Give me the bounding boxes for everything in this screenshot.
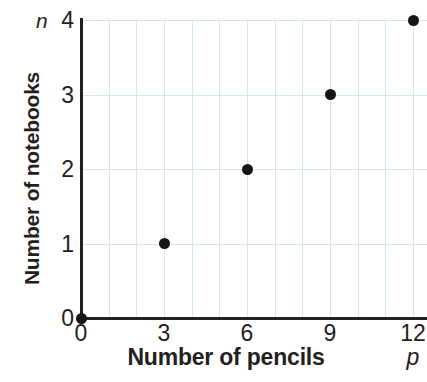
horizontal-gridline bbox=[81, 244, 427, 245]
y-tick-label: 3 bbox=[61, 83, 74, 106]
y-tick-label: 4 bbox=[61, 9, 74, 32]
y-tick-label: 2 bbox=[61, 158, 74, 181]
data-point bbox=[408, 15, 419, 26]
data-point bbox=[242, 164, 253, 175]
x-tick-label: 3 bbox=[158, 322, 171, 345]
y-axis-line bbox=[80, 18, 83, 320]
x-axis-line bbox=[80, 317, 427, 320]
x-tick-label: 0 bbox=[75, 322, 88, 345]
horizontal-gridline bbox=[81, 95, 427, 96]
horizontal-gridline bbox=[81, 169, 427, 170]
y-tick-label: 1 bbox=[61, 232, 74, 255]
y-axis-title: Number of notebooks bbox=[21, 29, 42, 329]
horizontal-gridline bbox=[81, 20, 427, 21]
x-tick-label: 6 bbox=[241, 322, 254, 345]
data-point bbox=[325, 89, 336, 100]
x-axis-title: Number of pencils bbox=[81, 346, 371, 369]
plot-area bbox=[81, 20, 427, 318]
y-tick-label: 0 bbox=[61, 307, 74, 330]
data-point bbox=[159, 238, 170, 249]
scatter-plot-figure: 01234 n p Number of notebooks Number of … bbox=[0, 0, 427, 382]
y-axis-variable-label: n bbox=[36, 10, 48, 31]
x-tick-label: 12 bbox=[400, 322, 426, 345]
x-axis-variable-label: p bbox=[407, 346, 420, 369]
x-tick-label: 9 bbox=[324, 322, 337, 345]
